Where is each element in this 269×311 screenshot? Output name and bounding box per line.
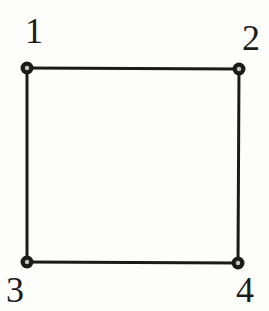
node-label-4: 4	[236, 270, 254, 310]
node-4-center-hole	[236, 261, 240, 265]
edge-2-4	[238, 69, 239, 263]
square-graph-diagram: 1234	[0, 0, 269, 311]
node-label-1: 1	[25, 11, 43, 51]
node-label-3: 3	[6, 270, 24, 310]
node-2-center-hole	[237, 67, 241, 71]
node-1-center-hole	[25, 66, 29, 70]
edge-3-4	[27, 262, 238, 263]
diagram-canvas: 1234	[0, 0, 269, 311]
node-3-center-hole	[25, 260, 29, 264]
node-label-2: 2	[242, 18, 260, 58]
edge-1-2	[27, 68, 239, 69]
